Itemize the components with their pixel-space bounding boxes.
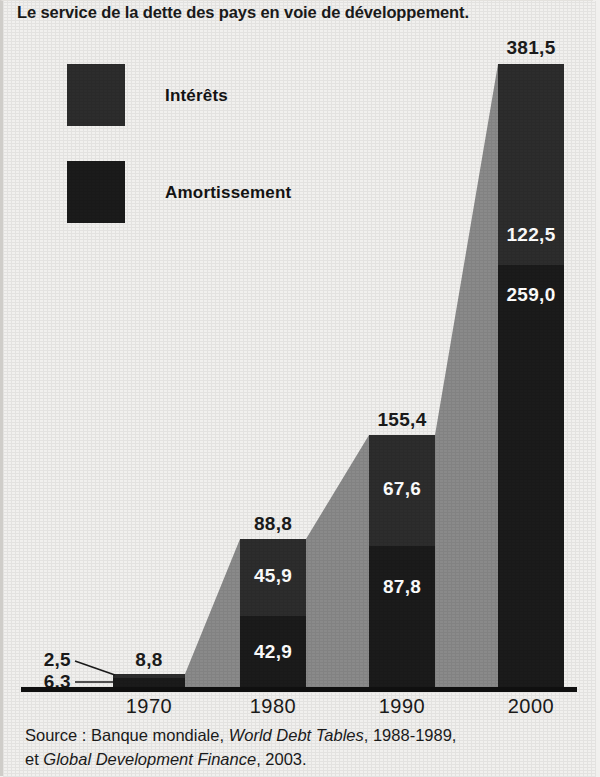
source-middle: , 1988-1989, (364, 726, 457, 744)
x-axis-label-1970: 1970 (89, 695, 209, 718)
legend-label-interets: Intérêts (165, 86, 228, 106)
x-axis-label-1980: 1980 (213, 695, 333, 718)
source-line2-suffix: , 2003. (256, 750, 306, 768)
callout-interets-1970: 2,5 (9, 649, 71, 671)
legend-swatch-amortissement (67, 161, 125, 223)
plot-area: 45,9 42,9 67,6 87,8 122,5 259,0 8,8 88,8… (3, 1, 596, 693)
x-axis-label-2000: 2000 (471, 695, 591, 718)
source-prefix: Source : Banque mondiale, (25, 726, 229, 744)
source-italic-title-1: World Debt Tables (229, 726, 364, 744)
source-line2-prefix: et (25, 750, 43, 768)
source-italic-title-2: Global Development Finance (43, 750, 256, 768)
legend-swatch-interets (67, 64, 125, 126)
axis-baseline (21, 687, 577, 692)
x-axis-label-1990: 1990 (342, 695, 462, 718)
source-note: Source : Banque mondiale, World Debt Tab… (25, 724, 585, 772)
legend-label-amortissement: Amortissement (165, 183, 291, 203)
